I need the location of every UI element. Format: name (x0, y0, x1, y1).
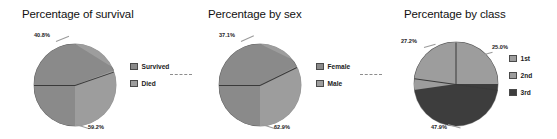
data-label-male: 62.9% (274, 124, 290, 130)
legend-label-survived: Survived (142, 63, 170, 70)
data-label-survived: 40.8% (34, 32, 50, 38)
legend-label-3rd: 3rd (521, 89, 531, 96)
legend-sex: Female Male (316, 60, 350, 94)
legend-class: 1st 2nd 3rd (509, 52, 532, 103)
legend-item-1st[interactable]: 1st (509, 52, 532, 65)
legend-item-3rd[interactable]: 3rd (509, 86, 532, 99)
legend-label-2nd: 2nd (521, 72, 533, 79)
page-title-survival: Percentage of survival (22, 8, 134, 20)
data-label-died: 59.2% (88, 124, 104, 130)
pie-chart-survival (34, 44, 116, 126)
data-label-female: 37.1% (219, 32, 235, 38)
data-label-1st: 27.2% (401, 38, 417, 44)
pie-divider-a (456, 43, 457, 85)
legend-label-male: Male (328, 80, 343, 87)
legend-swatch-2nd (509, 72, 517, 80)
data-label-3rd: 47.9% (431, 124, 447, 130)
chart-panel-sex: Percentage by sex 37.1% 62.9% Female Mal… (186, 0, 376, 139)
legend-swatch-female (316, 63, 324, 71)
legend-item-survived[interactable]: Survived (130, 60, 169, 73)
data-label-2nd: 25.0% (492, 44, 508, 50)
legend-item-male[interactable]: Male (316, 77, 350, 90)
legend-item-2nd[interactable]: 2nd (509, 69, 532, 82)
chart-panel-class: Percentage by class 27.2% 25.0% 47.9% 1s… (376, 0, 557, 139)
legend-swatch-died (130, 80, 138, 88)
legend-item-died[interactable]: Died (130, 77, 169, 90)
page-title-sex: Percentage by sex (208, 8, 302, 20)
legend-swatch-1st (509, 55, 517, 63)
page-title-class: Percentage by class (404, 8, 506, 20)
legend-label-died: Died (142, 80, 156, 87)
pie-chart-sex (219, 44, 301, 126)
chart-panel-survival: Percentage of survival 40.8% 59.2% Survi… (0, 0, 186, 139)
pie-divider-b (219, 85, 260, 86)
pie-divider-b (34, 85, 75, 86)
leader-line-female (241, 35, 254, 42)
legend-swatch-3rd (509, 89, 517, 97)
legend-label-1st: 1st (521, 55, 531, 62)
legend-swatch-survived (130, 63, 138, 71)
legend-item-female[interactable]: Female (316, 60, 350, 73)
legend-survival: Survived Died (130, 60, 169, 94)
legend-swatch-male (316, 80, 324, 88)
legend-label-female: Female (328, 63, 351, 70)
leader-line-survived (56, 36, 69, 42)
